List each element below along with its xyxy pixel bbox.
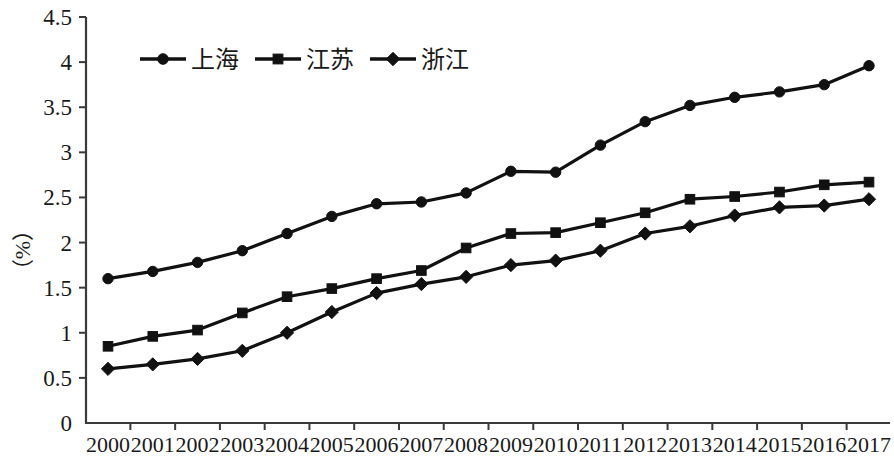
x-axis-tick-label: 2015 [757,432,801,456]
data-point-square [237,308,247,318]
data-point-diamond [818,199,831,212]
x-axis-tick-label: 2013 [668,432,712,456]
data-point-square [461,243,471,253]
y-axis-tick-label: 3 [61,140,73,165]
data-point-circle [103,273,113,283]
x-axis-tick-label: 2012 [623,432,667,456]
x-axis-tick-label: 2007 [399,432,443,456]
data-point-square [193,325,203,335]
legend-item-2[interactable]: 江苏 [255,47,354,73]
data-point-diamond [639,227,652,240]
series-2 [103,177,874,351]
data-point-circle [148,266,158,276]
y-axis-tick-label: 2.5 [43,185,72,210]
data-point-circle [506,166,516,176]
x-axis-tick-label: 2005 [310,432,354,456]
data-point-circle [730,92,740,102]
data-point-circle [461,188,471,198]
data-point-square [730,192,740,202]
series-1 [103,61,874,284]
data-point-diamond [773,201,786,214]
data-point-diamond [325,305,338,318]
data-point-diamond [862,193,875,206]
data-point-diamond [370,286,383,299]
data-point-square [417,266,427,276]
data-point-circle [371,199,381,209]
data-point-diamond [415,277,428,290]
x-axis-tick-label: 2016 [802,432,846,456]
data-point-diamond [386,52,399,65]
data-point-square [551,228,561,238]
y-axis-tick-label: 3.5 [43,95,72,120]
x-axis-tick-label: 2014 [713,432,757,456]
x-axis-tick-label: 2002 [176,432,220,456]
y-axis-tick-label: 4.5 [43,5,72,30]
data-point-square [685,194,695,204]
x-axis-tick-label: 2011 [579,432,622,456]
data-point-circle [640,116,650,126]
x-axis-tick-label: 2000 [86,432,130,456]
data-point-square [327,284,337,294]
data-point-diamond [683,220,696,233]
data-point-diamond [280,326,293,339]
x-axis-tick-label: 2010 [534,432,578,456]
x-axis-tick-label: 2008 [444,432,488,456]
y-axis-title: （%） [10,219,35,281]
data-point-square [148,332,158,342]
legend-label-2: 江苏 [306,47,354,73]
x-axis-tick-label: 2009 [489,432,533,456]
chart-legend: 上海江苏浙江 [140,47,469,73]
data-point-square [273,54,283,64]
data-point-square [372,274,382,284]
y-axis-tick-label: 0 [61,411,73,436]
series-3 [101,193,875,376]
data-point-circle [192,257,202,267]
data-point-circle [550,167,560,177]
data-point-diamond [191,352,204,365]
series-line-3 [108,199,869,369]
data-point-diamond [236,344,249,357]
legend-label-1: 上海 [191,47,239,73]
data-point-circle [685,100,695,110]
x-axis-tick-label: 2003 [220,432,264,456]
x-axis-tick-label: 2004 [265,432,309,456]
data-point-square [819,180,829,190]
data-point-diamond [594,244,607,257]
data-point-circle [282,228,292,238]
x-axis-tick-label: 2017 [847,432,891,456]
line-chart: 00.511.522.533.544.5（%）20002001200220032… [0,0,894,456]
data-point-circle [416,197,426,207]
data-point-square [103,342,113,352]
data-point-square [775,187,785,197]
series-line-2 [108,182,869,346]
y-axis-tick-label: 1.5 [43,276,72,301]
y-axis-tick-label: 0.5 [43,366,72,391]
data-point-square [282,292,292,302]
data-point-diamond [460,270,473,283]
legend-item-1[interactable]: 上海 [140,47,239,73]
data-point-square [596,218,606,228]
chart-canvas: 00.511.522.533.544.5（%）20002001200220032… [0,0,894,456]
data-point-diamond [504,259,517,272]
data-point-square [640,208,650,218]
legend-item-3[interactable]: 浙江 [370,47,469,73]
data-point-diamond [146,358,159,371]
data-point-circle [864,61,874,71]
y-axis-tick-label: 2 [61,231,73,256]
data-point-diamond [549,254,562,267]
x-axis-tick-label: 2001 [131,432,175,456]
data-point-circle [819,79,829,89]
data-point-circle [158,54,169,65]
chart-axes [86,17,890,423]
data-point-diamond [728,209,741,222]
x-axis-tick-label: 2006 [355,432,399,456]
data-point-circle [774,87,784,97]
y-axis-tick-label: 4 [61,50,73,75]
series-line-1 [108,66,869,279]
data-point-square [506,229,516,239]
legend-label-3: 浙江 [421,47,469,73]
data-point-circle [237,245,247,255]
data-point-circle [327,211,337,221]
data-point-square [864,177,874,187]
data-point-diamond [101,362,114,375]
